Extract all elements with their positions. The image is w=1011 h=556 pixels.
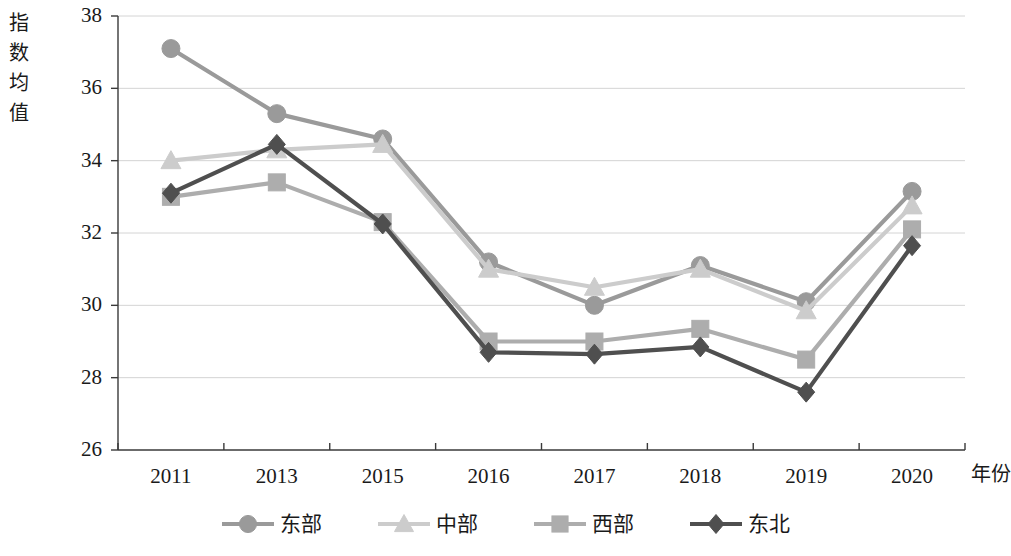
legend: 东部中部西部东北	[0, 512, 1009, 536]
data-point-square	[551, 516, 567, 532]
series-line	[171, 182, 912, 359]
legend-marker-diamond	[688, 512, 744, 536]
legend-label: 中部	[436, 514, 478, 535]
legend-item-东部[interactable]: 东部	[220, 512, 322, 536]
legend-label: 东部	[280, 514, 322, 535]
legend-item-西部[interactable]: 西部	[532, 512, 634, 536]
data-point-circle	[585, 296, 603, 314]
data-point-circle	[239, 515, 256, 532]
series-西部	[162, 174, 920, 368]
x-axis-title: 年份	[971, 462, 1011, 486]
legend-marker-square	[532, 512, 588, 536]
series-中部	[161, 134, 922, 318]
data-point-circle	[162, 40, 180, 58]
legend-label: 西部	[592, 514, 634, 535]
legend-label: 东北	[748, 514, 790, 535]
legend-marker-triangle	[376, 512, 432, 536]
data-point-square	[798, 351, 815, 368]
series-layer	[161, 40, 922, 403]
data-point-square	[692, 320, 709, 337]
data-point-circle	[268, 105, 286, 123]
data-point-square	[268, 174, 285, 191]
legend-item-中部[interactable]: 中部	[376, 512, 478, 536]
data-point-diamond	[692, 337, 709, 357]
legend-item-东北[interactable]: 东北	[688, 512, 790, 536]
legend-marker-circle	[220, 512, 276, 536]
data-point-diamond	[707, 515, 723, 534]
